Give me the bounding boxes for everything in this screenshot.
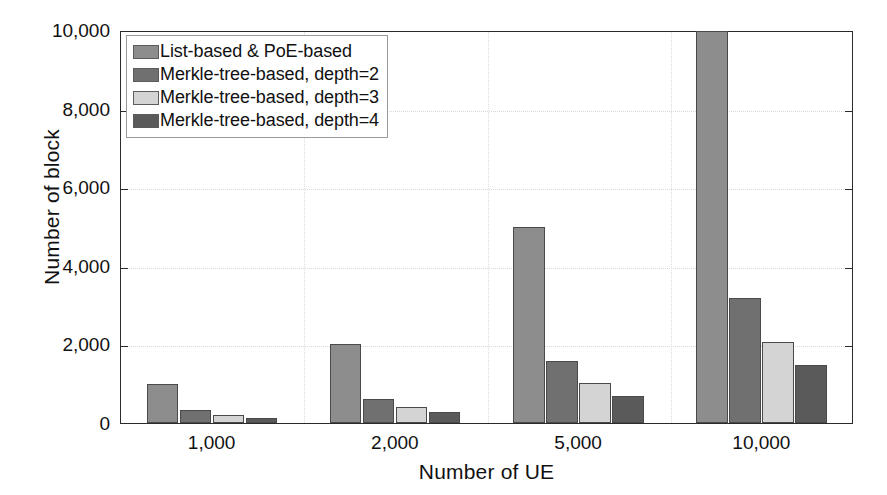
- legend-item-label: Merkle-tree-based, depth=3: [160, 87, 379, 108]
- y-tick-mark: [845, 189, 852, 190]
- bar: [246, 418, 277, 424]
- y-tick-label: 6,000: [62, 177, 110, 199]
- y-tick-mark: [121, 189, 128, 190]
- bar: [762, 342, 793, 423]
- bar-chart-figure: Number of block 02,0004,0006,0008,00010,…: [0, 0, 887, 495]
- x-tick-label: 1,000: [188, 432, 236, 454]
- legend-item[interactable]: Merkle-tree-based, depth=4: [133, 109, 379, 132]
- bar: [147, 384, 178, 423]
- y-tick-label: 2,000: [62, 334, 110, 356]
- bar: [579, 383, 610, 423]
- bar: [429, 412, 460, 423]
- legend-swatch-icon: [133, 45, 159, 59]
- bar: [696, 31, 727, 423]
- y-axis-title: Number of block: [40, 37, 64, 377]
- bar: [795, 365, 826, 423]
- y-tick-mark: [121, 268, 128, 269]
- y-tick-mark: [845, 346, 852, 347]
- y-tick-mark: [121, 346, 128, 347]
- legend-item-label: Merkle-tree-based, depth=4: [160, 110, 379, 131]
- legend-swatch-icon: [133, 114, 159, 128]
- gridline-vertical: [671, 32, 672, 423]
- x-tick-label: 10,000: [732, 432, 790, 454]
- y-tick-label: 4,000: [62, 256, 110, 278]
- legend-item[interactable]: Merkle-tree-based, depth=3: [133, 86, 379, 109]
- bar: [330, 344, 361, 423]
- x-axis-title: Number of UE: [120, 460, 853, 484]
- bar: [612, 396, 643, 424]
- y-tick-label: 0: [99, 413, 110, 435]
- legend-item-label: List-based & PoE-based: [160, 41, 352, 62]
- bar: [546, 361, 577, 423]
- bar: [363, 399, 394, 423]
- bar: [396, 407, 427, 424]
- legend-swatch-icon: [133, 68, 159, 82]
- bar: [729, 298, 760, 423]
- y-tick-mark: [845, 111, 852, 112]
- y-tick-mark: [845, 268, 852, 269]
- gridline-horizontal: [121, 189, 852, 190]
- bar: [180, 410, 211, 423]
- legend-item-label: Merkle-tree-based, depth=2: [160, 64, 379, 85]
- x-tick-label: 5,000: [554, 432, 602, 454]
- legend-item[interactable]: Merkle-tree-based, depth=2: [133, 63, 379, 86]
- legend-swatch-icon: [133, 91, 159, 105]
- y-tick-label: 10,000: [52, 20, 110, 42]
- x-tick-label: 2,000: [371, 432, 419, 454]
- chart-legend: List-based & PoE-basedMerkle-tree-based,…: [126, 35, 388, 138]
- bar: [213, 415, 244, 423]
- y-tick-label: 8,000: [62, 99, 110, 121]
- gridline-horizontal: [121, 268, 852, 269]
- gridline-vertical: [488, 32, 489, 423]
- bar: [513, 227, 544, 424]
- legend-item[interactable]: List-based & PoE-based: [133, 40, 379, 63]
